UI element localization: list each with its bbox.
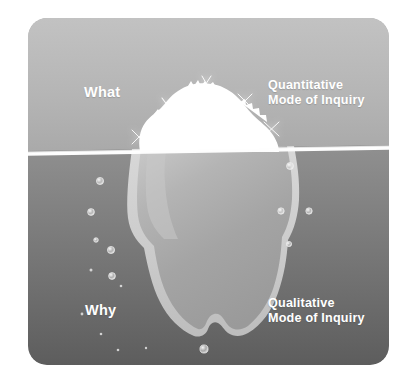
bubble xyxy=(200,345,208,353)
bubble-small xyxy=(145,347,147,349)
label-qualitative-mode-of-inquiry: Qualitative Mode of Inquiry xyxy=(268,296,365,326)
bubble-small xyxy=(90,269,93,272)
label-quantitative-mode-of-inquiry: Quantitative Mode of Inquiry xyxy=(268,78,365,108)
bubble xyxy=(278,208,284,214)
bubble xyxy=(96,177,103,184)
bubble xyxy=(109,273,116,280)
iceberg-diagram-card: What Quantitative Mode of Inquiry Why Qu… xyxy=(28,18,389,365)
bubble xyxy=(286,241,291,246)
bubble-small xyxy=(117,349,120,352)
bubble-small xyxy=(81,313,84,316)
label-what: What xyxy=(84,84,120,101)
bubble-small xyxy=(120,285,123,288)
bubble xyxy=(94,238,99,243)
screenshot-root: What Quantitative Mode of Inquiry Why Qu… xyxy=(0,0,412,388)
bubble xyxy=(107,246,114,253)
label-why: Why xyxy=(85,302,116,319)
bubble xyxy=(287,163,294,170)
bubble xyxy=(88,209,95,216)
bubble xyxy=(306,208,312,214)
bubble-small xyxy=(100,333,103,336)
